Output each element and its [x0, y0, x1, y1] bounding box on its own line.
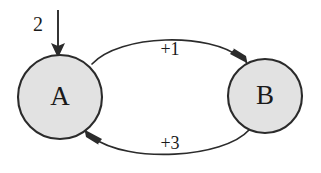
- node-a[interactable]: A: [18, 55, 102, 139]
- edge-a-to-b-label: +1: [160, 39, 179, 59]
- input-arrow-into-a: 2: [33, 10, 65, 58]
- edge-a-to-b: +1: [92, 39, 248, 66]
- edge-b-to-a-label: +3: [160, 133, 179, 153]
- edge-a-to-b-arrowhead: [230, 48, 248, 66]
- diagram-canvas: +1 +3 2 A B: [0, 0, 321, 173]
- node-b[interactable]: B: [228, 59, 302, 133]
- node-b-label: B: [256, 80, 274, 110]
- edge-b-to-a: +3: [84, 127, 249, 154]
- state-transition-diagram: +1 +3 2 A B: [0, 0, 321, 173]
- input-arrow-label: 2: [33, 13, 43, 35]
- node-a-label: A: [50, 81, 70, 111]
